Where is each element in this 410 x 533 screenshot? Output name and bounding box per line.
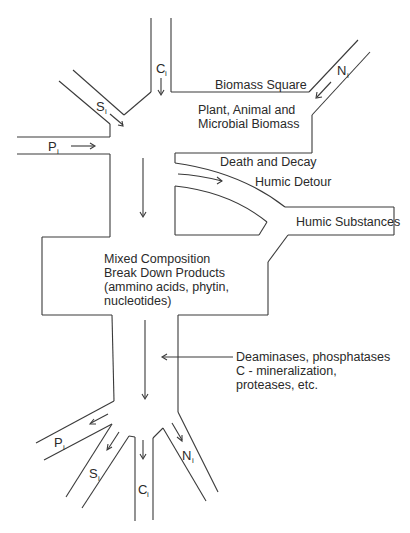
carbon-input-subscript: i xyxy=(165,69,167,78)
phosphorus-input-subscript: i xyxy=(57,147,59,156)
biomass-content-line-2: Microbial Biomass xyxy=(198,117,299,131)
phosphorus-output-symbol: P xyxy=(54,435,63,450)
nitrogen-output-symbol: N xyxy=(182,448,191,463)
sulfur-output-arrow xyxy=(108,432,119,449)
enzymes-line-3: proteases, etc. xyxy=(236,378,318,392)
humic-substances-label: Humic Substances xyxy=(296,215,400,229)
carbon-output-symbol: C xyxy=(138,482,147,497)
sulfur-input-arrow xyxy=(110,114,123,125)
enzymes-line-1: Deaminases, phosphatases xyxy=(236,350,390,364)
phosphorus-output-subscript: i xyxy=(63,443,65,452)
humic-detour-label: Humic Detour xyxy=(255,175,331,189)
phosphorus-output-channel: P i xyxy=(36,401,114,460)
biomass-square-title: Biomass Square xyxy=(215,78,307,92)
carbon-input-channel: C i xyxy=(151,18,171,95)
carbon-output-subscript: i xyxy=(147,490,149,499)
sulfur-input-symbol: S xyxy=(96,99,105,114)
mixed-line-3: (ammino acids, phytin, xyxy=(104,280,229,294)
sulfur-output-channel: S i xyxy=(66,424,129,508)
mixed-composition-box: Mixed Composition Break Down Products (a… xyxy=(42,237,268,412)
nitrogen-output-channel: N i xyxy=(163,412,218,501)
mixed-line-1: Mixed Composition xyxy=(104,252,210,266)
sulfur-output-symbol: S xyxy=(89,466,98,481)
mixed-line-4: nucleotides) xyxy=(104,294,171,308)
carbon-input-symbol: C xyxy=(156,61,165,76)
sulfur-input-subscript: i xyxy=(105,107,107,116)
humic-detour-arrow xyxy=(178,174,222,181)
nitrogen-input-subscript: i xyxy=(347,71,349,80)
nitrogen-input-arrow xyxy=(317,82,331,97)
biomass-content-line-1: Plant, Animal and xyxy=(198,103,295,117)
phosphorus-output-arrow xyxy=(91,414,108,423)
mixed-line-2: Break Down Products xyxy=(104,266,225,280)
sulfur-output-subscript: i xyxy=(98,474,100,483)
nitrogen-input-symbol: N xyxy=(337,63,346,78)
death-and-decay-label: Death and Decay xyxy=(220,155,317,169)
biomass-square: N i Biomass Square Plant, Animal and Mic… xyxy=(171,40,370,153)
nitrogen-output-subscript: i xyxy=(192,456,194,465)
nutrient-cycling-diagram: C i S i P i N i Biomass Square Plant, An… xyxy=(0,0,410,533)
phosphorus-input-symbol: P xyxy=(48,139,57,154)
enzymes-annotation: Deaminases, phosphatases C - mineralizat… xyxy=(162,350,390,392)
enzymes-line-2: C - mineralization, xyxy=(236,364,337,378)
sulfur-input-channel: S i xyxy=(59,70,151,137)
phosphorus-input-channel: P i xyxy=(17,137,110,237)
carbon-output-channel: C i xyxy=(129,428,163,521)
